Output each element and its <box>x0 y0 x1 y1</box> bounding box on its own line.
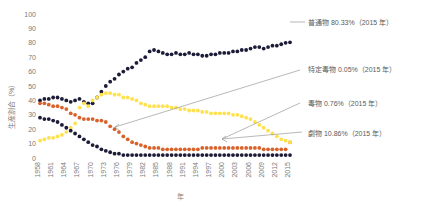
data-point <box>161 153 165 157</box>
data-point <box>279 153 283 157</box>
data-point <box>64 126 68 130</box>
data-point <box>161 51 165 55</box>
data-point <box>126 96 130 100</box>
data-point <box>288 153 292 157</box>
data-point <box>135 153 139 157</box>
data-point <box>51 136 55 140</box>
data-point <box>82 117 86 121</box>
x-tick-label: 2015 <box>284 162 291 178</box>
data-point <box>262 126 266 130</box>
data-point <box>42 101 46 105</box>
data-point <box>165 153 169 157</box>
data-point <box>161 104 165 108</box>
data-point <box>240 114 244 118</box>
leader-line-tokutei-dokubutsu <box>115 70 300 127</box>
data-point <box>205 146 209 150</box>
data-point <box>139 143 143 147</box>
series-1 <box>38 101 292 151</box>
data-point <box>183 153 187 157</box>
data-point <box>257 146 261 150</box>
x-tick-label: 1970 <box>87 162 94 178</box>
data-point <box>78 135 82 139</box>
data-point <box>183 147 187 151</box>
data-point <box>95 145 99 149</box>
y-tick-label: 100 <box>24 11 36 18</box>
y-tick-label: 80 <box>28 39 36 46</box>
data-point <box>100 147 104 151</box>
data-point <box>104 84 108 88</box>
data-point <box>113 93 117 97</box>
data-point <box>95 96 99 100</box>
data-point <box>91 143 95 147</box>
data-point <box>231 113 235 117</box>
data-point <box>73 99 77 103</box>
series-0 <box>38 40 292 105</box>
data-point <box>157 50 161 54</box>
data-point <box>244 48 248 52</box>
data-point <box>222 111 226 115</box>
data-point <box>108 124 112 128</box>
data-point <box>56 96 60 100</box>
series-group <box>38 40 292 157</box>
data-point <box>262 47 266 51</box>
data-point <box>253 45 257 49</box>
data-point <box>218 111 222 115</box>
data-point <box>126 153 130 157</box>
data-point <box>38 116 42 120</box>
data-point <box>271 44 275 48</box>
chart-canvas: 1009080706050403020100 生産割合（%） 195819611… <box>0 0 425 208</box>
y-tick-label: 20 <box>28 126 36 133</box>
data-point <box>183 107 187 111</box>
x-tick-label: 2009 <box>258 162 265 178</box>
legend-label-gekibutsu: 劇物 10.86%（2015 年） <box>308 129 386 138</box>
y-tick-label: 60 <box>28 68 36 75</box>
data-point <box>257 123 261 127</box>
data-point <box>73 132 77 136</box>
data-point <box>51 119 55 123</box>
data-point <box>104 91 108 95</box>
data-point <box>284 153 288 157</box>
data-point <box>253 146 257 150</box>
data-point <box>47 97 51 101</box>
data-point <box>214 153 218 157</box>
data-point <box>139 58 143 62</box>
data-point <box>38 139 42 143</box>
data-point <box>205 54 209 58</box>
data-point <box>73 122 77 126</box>
data-point <box>214 52 218 56</box>
data-point <box>108 80 112 84</box>
data-point <box>86 140 90 144</box>
data-point <box>56 120 60 124</box>
legend-label-futsubutsu: 普通物 80.33%（2015 年） <box>308 18 393 27</box>
data-point <box>64 130 68 134</box>
x-axis-ticks: 1958196119641967197019731976197919821985… <box>34 162 291 178</box>
legend-label-tokutei-dokubutsu: 特定毒物 0.05%（2015 年） <box>308 65 396 74</box>
data-point <box>249 153 253 157</box>
data-point <box>56 104 60 108</box>
x-tick-label: 1973 <box>100 162 107 178</box>
x-tick-label: 1994 <box>192 162 199 178</box>
data-point <box>178 147 182 151</box>
data-point <box>143 103 147 107</box>
data-point <box>42 97 46 101</box>
data-point <box>60 133 64 137</box>
data-point <box>262 153 266 157</box>
x-tick-label: 1979 <box>126 162 133 178</box>
data-point <box>157 104 161 108</box>
data-point <box>78 116 82 120</box>
data-point <box>152 104 156 108</box>
x-axis-title-text: 年 <box>177 192 184 201</box>
data-point <box>227 51 231 55</box>
data-point <box>126 137 130 141</box>
data-point <box>95 119 99 123</box>
data-point <box>69 111 73 115</box>
data-point <box>121 96 125 100</box>
x-tick-label: 2000 <box>218 162 225 178</box>
x-tick-label: 1988 <box>166 162 173 178</box>
data-point <box>47 136 51 140</box>
data-point <box>288 40 292 44</box>
data-point <box>64 107 68 111</box>
data-point <box>174 51 178 55</box>
data-point <box>200 54 204 58</box>
data-point <box>235 146 239 150</box>
